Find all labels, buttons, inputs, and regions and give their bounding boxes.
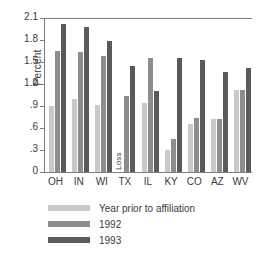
bar — [148, 58, 153, 172]
plot-area: Loss — [44, 18, 252, 172]
x-axis-label: WV — [229, 176, 252, 187]
legend-label: Year prior to affiliation — [99, 203, 195, 214]
y-axis-tick: 1.2 — [0, 84, 44, 85]
bar — [194, 118, 199, 172]
bar — [217, 119, 222, 172]
y-axis-tick: 1.8 — [0, 40, 44, 41]
x-axis-label: TX — [113, 176, 136, 187]
y-axis-tick: 0 — [0, 172, 44, 173]
bar — [124, 96, 129, 172]
x-axis-label: IN — [67, 176, 90, 187]
legend-item: Year prior to affiliation — [48, 200, 258, 216]
bar — [223, 72, 228, 172]
x-axis-label: KY — [160, 176, 183, 187]
bar — [154, 91, 159, 172]
legend-swatch — [48, 221, 90, 227]
loss-annotation: Loss — [114, 152, 123, 170]
legend-label: 1992 — [99, 219, 121, 230]
x-axis-label: IL — [136, 176, 159, 187]
bar-group — [165, 18, 182, 172]
bar — [84, 27, 89, 172]
bar — [107, 41, 112, 172]
bar-group — [142, 18, 159, 172]
x-axis-label: CO — [183, 176, 206, 187]
bar — [240, 90, 245, 172]
bar — [49, 106, 54, 172]
bar — [101, 56, 106, 172]
bar — [130, 66, 135, 172]
bar-group — [72, 18, 89, 172]
bar-group — [211, 18, 228, 172]
y-axis-tick-label: 1.8 — [24, 33, 38, 44]
bar-group: Loss — [118, 18, 135, 172]
bar — [142, 103, 147, 172]
y-axis-tick-label: .6 — [30, 121, 38, 132]
bar-group — [95, 18, 112, 172]
bar — [78, 52, 83, 172]
bar — [61, 24, 66, 172]
y-axis-tick-label: 0 — [32, 165, 38, 176]
bar — [246, 68, 251, 172]
y-axis-tick: 1.5 — [0, 62, 44, 63]
legend-label: 1993 — [99, 235, 121, 246]
y-axis-tick: .9 — [0, 106, 44, 107]
y-axis-tick-label: .9 — [30, 99, 38, 110]
bar-group — [234, 18, 251, 172]
x-axis-label: AZ — [206, 176, 229, 187]
x-axis-label: WI — [90, 176, 113, 187]
y-axis-tick: .3 — [0, 150, 44, 151]
y-axis-tick: 2.1 — [0, 18, 44, 19]
bar — [200, 60, 205, 172]
bar — [55, 51, 60, 172]
legend-item: 1993 — [48, 232, 258, 248]
bar-chart-figure: Percent 0.3.6.91.21.51.82.1 Loss OHINWIT… — [0, 0, 264, 254]
legend-swatch — [48, 205, 90, 211]
legend-item: 1992 — [48, 216, 258, 232]
bar — [211, 119, 216, 172]
bar — [165, 150, 170, 172]
y-axis-tick-label: 1.2 — [24, 77, 38, 88]
bar-group — [49, 18, 66, 172]
chart-legend: Year prior to affiliation19921993 — [48, 200, 258, 248]
bar — [188, 124, 193, 172]
bar — [72, 99, 77, 172]
bar — [171, 139, 176, 172]
y-axis-tick-label: .3 — [30, 143, 38, 154]
bar-group — [188, 18, 205, 172]
y-axis-tick: .6 — [0, 128, 44, 129]
y-axis-tick-label: 1.5 — [24, 55, 38, 66]
y-axis-tick-label: 2.1 — [24, 11, 38, 22]
bar — [95, 105, 100, 172]
bar — [234, 90, 239, 172]
x-axis-line — [44, 172, 252, 173]
x-axis-label: OH — [44, 176, 67, 187]
bar — [177, 58, 182, 172]
legend-swatch — [48, 237, 90, 243]
